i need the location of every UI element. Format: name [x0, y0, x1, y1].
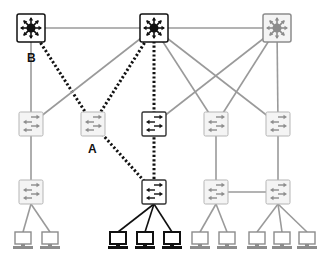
computer-icon: [272, 232, 292, 249]
computer-icon: [40, 232, 60, 249]
computer-icon: [217, 232, 237, 249]
pc-pc4[interactable]: [135, 232, 155, 249]
link-acc4-pc8: [257, 204, 278, 232]
computer-icon: [13, 232, 33, 249]
pc-pc9[interactable]: [272, 232, 292, 249]
computer-icon: [108, 232, 128, 249]
pc-pc7[interactable]: [217, 232, 237, 249]
pc-pc8[interactable]: [247, 232, 267, 249]
access-switch-acc4[interactable]: [266, 180, 290, 204]
pc-pc1[interactable]: [13, 232, 33, 249]
pc-pc3[interactable]: [108, 232, 128, 249]
multilayer-switch-icon: [143, 17, 165, 39]
pc-pc10[interactable]: [297, 232, 317, 249]
switch-box: [81, 112, 105, 136]
distribution-switch-dist4[interactable]: [204, 112, 228, 136]
pc-pc2[interactable]: [40, 232, 60, 249]
core-switch-core1[interactable]: [17, 14, 45, 42]
switch-box: [142, 180, 166, 204]
computer-icon: [162, 232, 182, 249]
core-switch-core2[interactable]: [140, 14, 168, 42]
access-switch-acc3[interactable]: [204, 180, 228, 204]
multilayer-switch-icon: [266, 17, 288, 39]
access-switch-acc2[interactable]: [142, 180, 166, 204]
distribution-switch-dist3[interactable]: [142, 112, 166, 136]
switch-box: [266, 180, 290, 204]
switch-box: [266, 112, 290, 136]
distribution-switch-dist1[interactable]: [19, 112, 43, 136]
access-switch-acc1[interactable]: [19, 180, 43, 204]
link-acc1-pc1: [23, 204, 31, 232]
switch-box: [19, 180, 43, 204]
link-acc2-pc3: [118, 204, 154, 232]
link-acc3-pc6: [200, 204, 216, 232]
pc-pc6[interactable]: [190, 232, 210, 249]
distribution-switch-dist5[interactable]: [266, 112, 290, 136]
link-core2-dist1: [31, 28, 154, 124]
link-acc3-pc7: [216, 204, 227, 232]
multilayer-switch-icon: [20, 17, 42, 39]
link-acc4-pc10: [278, 204, 307, 232]
core-switch-core3[interactable]: [263, 14, 291, 42]
distribution-switch-dist2[interactable]: [81, 112, 105, 136]
label-a: A: [88, 142, 97, 156]
switch-box: [142, 112, 166, 136]
pc-pc5[interactable]: [162, 232, 182, 249]
switch-box: [204, 112, 228, 136]
label-b: B: [27, 51, 36, 65]
switch-box: [204, 180, 228, 204]
computer-icon: [297, 232, 317, 249]
link-acc1-pc2: [31, 204, 50, 232]
computer-icon: [190, 232, 210, 249]
switch-box: [19, 112, 43, 136]
link-acc2-pc5: [154, 204, 172, 232]
network-diagram: A B: [0, 0, 330, 262]
computer-icon: [247, 232, 267, 249]
computer-icon: [135, 232, 155, 249]
